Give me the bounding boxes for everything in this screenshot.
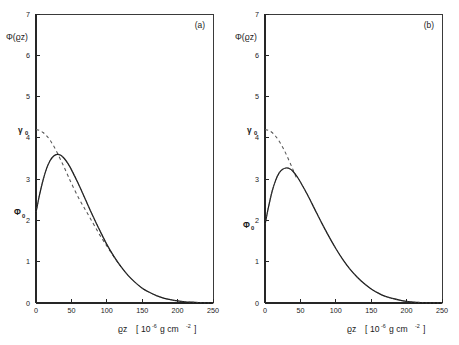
phi-zero-label-a: Φ [14,207,21,217]
x-axis-unit-exp2-a: -2 [186,323,191,329]
x-axis-title-b: ϱz [347,324,356,334]
measured-curve-b [265,168,442,303]
y-tick-label: 6 [26,51,30,60]
plot-frame [265,14,442,303]
x-axis-unit-exp2-b: -2 [415,323,420,329]
x-axis-title-a: ϱz [118,324,127,334]
y-axis-title-a: Φ(ϱz) [6,32,28,42]
x-tick-label: 0 [34,306,38,315]
phi-zero-sub-b: 0 [251,225,254,231]
gamma-zero-sub-a: 0 [25,130,28,136]
gamma-zero-sub-b: 0 [254,130,257,136]
x-axis-unit-open-b: [ [365,324,368,334]
gamma-zero-marker-a: γ 0 [18,125,28,136]
y-tick-label: 5 [255,92,259,101]
panel-a-y-tick-labels: 01234567 [26,10,30,308]
x-axis-unit-exp-a: -6 [152,323,157,329]
panel-b-axes [265,14,442,303]
x-tick-label: 100 [101,306,113,315]
panel-tag-b: (b) [424,20,434,30]
x-tick-label: 50 [296,306,304,315]
phi-zero-marker-a: Φ 0 [14,207,25,218]
plot-frame [36,14,213,303]
phi-zero-sub-a: 0 [22,213,25,219]
y-tick-label: 5 [26,92,30,101]
figure-root: 01234567 050100150200250 Φ(ϱz) (a) γ 0 Φ… [0,0,459,345]
x-tick-label: 100 [330,306,342,315]
y-tick-label: 2 [255,216,259,225]
y-tick-label: 0 [255,299,259,308]
y-tick-label: 7 [26,10,30,19]
x-tick-label: 250 [436,306,448,315]
panel-tag-a: (a) [195,20,205,30]
x-axis-unit-rest-a: g cm [160,324,179,334]
x-axis-unit-close-a: ] [194,324,196,334]
x-tick-label: 150 [136,306,148,315]
panel-b-x-tick-labels: 050100150200250 [263,306,448,315]
x-axis-unit-open-a: [ [136,324,139,334]
x-axis-unit-close-b: ] [423,324,425,334]
y-tick-label: 1 [26,257,30,266]
x-tick-label: 50 [67,306,75,315]
x-axis-title-group-b: ϱz [ 10 -6 g cm -2 ] [347,323,425,334]
x-tick-label: 150 [365,306,377,315]
x-axis-unit-base-a: 10 [141,324,151,334]
theoretical-curve-b [265,130,297,180]
panel-a-axes [36,14,213,303]
measured-curve-a [36,154,213,303]
x-tick-label: 0 [263,306,267,315]
y-axis-title-b: Φ(ϱz) [235,32,257,42]
phi-zero-marker-b: Φ 0 [243,220,254,231]
y-tick-label: 3 [255,175,259,184]
panel-a-x-tick-labels: 050100150200250 [34,306,219,315]
chart-panel-a: 01234567 050100150200250 Φ(ϱz) (a) γ 0 Φ… [0,0,229,345]
panel-b-y-tick-labels: 01234567 [255,10,259,308]
x-tick-label: 200 [172,306,184,315]
measured-curve-a-overlay [36,154,213,303]
y-tick-label: 1 [255,257,259,266]
x-axis-unit-base-b: 10 [370,324,380,334]
panel-a-y-ticks [36,14,40,303]
measured-curve-b-overlay [265,168,442,303]
gamma-zero-label-a: γ [18,125,23,135]
x-axis-unit-exp-b: -6 [381,323,386,329]
x-axis-title-group-a: ϱz [ 10 -6 g cm -2 ] [118,323,196,334]
gamma-zero-marker-b: γ 0 [247,125,257,136]
y-tick-label: 0 [26,299,30,308]
y-tick-label: 3 [26,175,30,184]
panel-b-svg: 01234567 050100150200250 Φ(ϱz) (b) γ 0 Φ… [229,0,458,345]
x-axis-unit-rest-b: g cm [389,324,408,334]
y-tick-label: 6 [255,51,259,60]
phi-zero-label-b: Φ [243,220,250,230]
y-tick-label: 2 [26,216,30,225]
gamma-zero-label-b: γ [247,125,252,135]
x-tick-label: 250 [207,306,219,315]
panel-a-svg: 01234567 050100150200250 Φ(ϱz) (a) γ 0 Φ… [0,0,229,345]
x-tick-label: 200 [401,306,413,315]
y-tick-label: 7 [255,10,259,19]
panel-b-y-ticks [265,14,269,303]
chart-panel-b: 01234567 050100150200250 Φ(ϱz) (b) γ 0 Φ… [229,0,458,345]
